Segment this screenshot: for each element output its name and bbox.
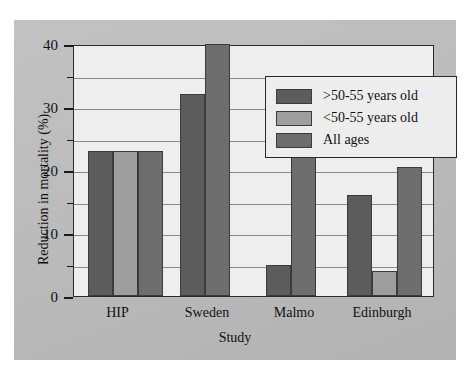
bar-malmo-over50 [266, 265, 291, 297]
bar-edinburgh-allages [397, 167, 422, 296]
legend-swatch-over50 [276, 89, 312, 104]
y-tick-label-30: 30 [24, 101, 58, 116]
legend-swatch-allages [276, 133, 312, 148]
legend-label-under50: <50-55 years old [323, 110, 418, 126]
y-tick-major-40 [64, 45, 73, 47]
legend-label-over50: >50-55 years old [323, 88, 418, 104]
y-tick-label-10: 10 [24, 227, 58, 242]
figure-canvas: Reduction in mortality (%) 40 30 20 10 0 [0, 0, 472, 380]
legend-item-allages: All ages [276, 130, 369, 150]
y-tick-label-20: 20 [24, 164, 58, 179]
x-tick-label-hip: HIP [75, 305, 160, 321]
bar-sweden-over50 [180, 94, 205, 296]
y-tick-major-30 [64, 108, 73, 110]
x-tick-label-edinburgh: Edinburgh [332, 305, 432, 321]
x-axis-title: Study [14, 330, 456, 346]
bar-hip-under50 [113, 151, 138, 296]
y-tick-major-0 [64, 297, 73, 299]
plot-area: >50-55 years old <50-55 years old All ag… [73, 45, 434, 297]
x-tick-label-malmo: Malmo [250, 305, 338, 321]
bar-sweden-allages [205, 44, 230, 296]
y-tick-label-40: 40 [24, 38, 58, 53]
bar-edinburgh-over50 [347, 195, 372, 296]
bar-hip-over50 [88, 151, 113, 296]
y-tick-major-10 [64, 234, 73, 236]
bar-hip-allages [138, 151, 163, 296]
legend-item-under50: <50-55 years old [276, 108, 418, 128]
legend-swatch-under50 [276, 111, 312, 126]
y-tick-major-20 [64, 171, 73, 173]
chart-panel: Reduction in mortality (%) 40 30 20 10 0 [14, 20, 456, 360]
legend: >50-55 years old <50-55 years old All ag… [265, 76, 457, 158]
bar-malmo-allages [291, 154, 316, 296]
y-axis-title: Reduction in mortality (%) [36, 114, 52, 265]
legend-label-allages: All ages [323, 132, 369, 148]
y-tick-label-0: 0 [24, 290, 58, 305]
x-tick-label-sweden: Sweden [162, 305, 252, 321]
legend-item-over50: >50-55 years old [276, 86, 418, 106]
bar-edinburgh-under50 [372, 271, 397, 296]
